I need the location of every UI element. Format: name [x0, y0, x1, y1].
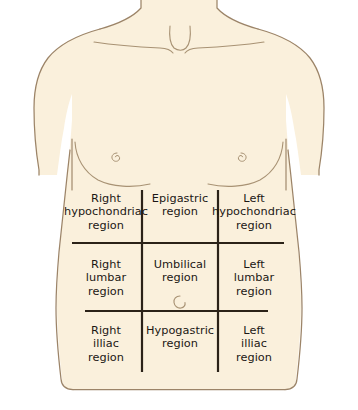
region-label-left-illiac: Left illiac region — [209, 324, 299, 364]
abdominal-regions-diagram: Right hypochondriac region Epigastric re… — [0, 0, 358, 410]
region-label-layer: Right hypochondriac region Epigastric re… — [0, 0, 358, 410]
region-label-left-lumbar: Left lumbar region — [209, 258, 299, 298]
region-label-epigastric: Epigastric region — [143, 192, 217, 219]
region-label-right-illiac: Right illiac region — [61, 324, 151, 364]
region-label-left-hypochondriac: Left hypochondriac region — [209, 192, 299, 232]
region-label-umbilical: Umbilical region — [143, 258, 217, 285]
region-label-right-hypochondriac: Right hypochondriac region — [61, 192, 151, 232]
region-label-hypogastric: Hypogastric region — [143, 324, 217, 351]
region-label-right-lumbar: Right lumbar region — [61, 258, 151, 298]
